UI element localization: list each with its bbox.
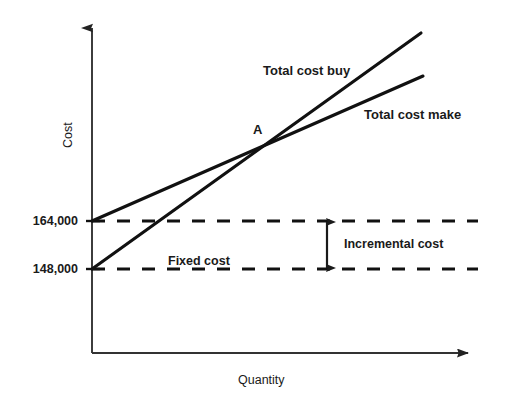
fixed-cost-label: Fixed cost: [168, 255, 230, 268]
series-line-total-cost-make: [92, 76, 423, 221]
incremental-cost-label: Incremental cost: [344, 238, 443, 251]
chart-canvas: [0, 0, 508, 408]
y-tick-label-164000: 164,000: [16, 215, 78, 228]
series-label-total-cost-buy: Total cost buy: [263, 64, 350, 77]
x-axis-title: Quantity: [238, 374, 285, 387]
series-line-total-cost-buy: [92, 33, 421, 269]
y-tick-label-148000: 148,000: [16, 263, 78, 276]
cost-comparison-chart: 164,000 148,000 Cost Quantity Total cost…: [0, 0, 508, 408]
intersection-point-label: A: [253, 123, 262, 136]
y-axis-title: Cost: [62, 122, 75, 148]
series-label-total-cost-make: Total cost make: [364, 108, 461, 121]
